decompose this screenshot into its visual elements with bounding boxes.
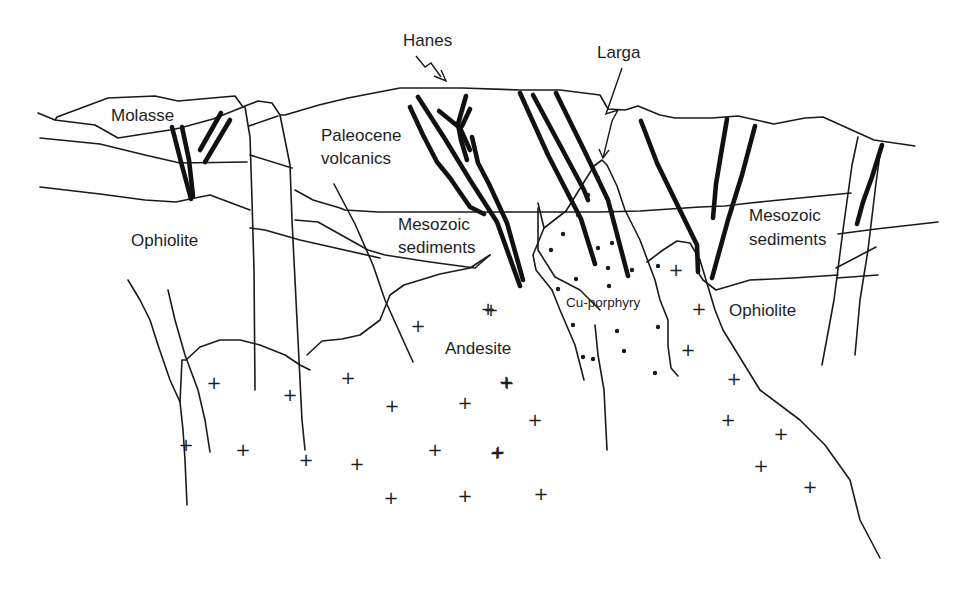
plus-icon: + [457, 392, 472, 413]
plus-icon: + [802, 476, 817, 497]
contact-line [533, 228, 552, 290]
porphyry-dot-icon [596, 176, 600, 180]
vein-line [205, 120, 230, 162]
contact-line [698, 272, 838, 290]
contact-line [837, 275, 878, 278]
contact-line [595, 325, 607, 450]
contact-line [250, 155, 292, 168]
andesite-plus-pattern: +++++++++++++++++++++++++++++ [178, 259, 817, 508]
plus-icon: + [349, 453, 364, 474]
plus-icon: + [498, 371, 513, 392]
contact-line [250, 228, 380, 258]
porphyry-dot-icon [622, 349, 626, 353]
plus-icon: + [773, 423, 788, 444]
hanes-arrow-icon [416, 56, 441, 77]
vein-line [857, 145, 882, 224]
plus-icon: + [206, 372, 221, 393]
plus-icon: + [527, 409, 542, 430]
plus-icon: + [178, 434, 193, 455]
unit-labels: HanesLargaMolassePaleocenevolcanicsOphio… [111, 31, 826, 358]
vein-line [472, 137, 523, 280]
label-cu-porphyry: Cu-porphyry [566, 295, 641, 310]
label-ophiolite-left: Ophiolite [131, 231, 198, 250]
plus-icon: + [383, 487, 398, 508]
plus-icon: + [483, 299, 498, 320]
porphyry-dot-icon [556, 287, 560, 291]
plus-icon: + [298, 449, 313, 470]
vein-line [410, 107, 484, 214]
label-andesite: Andesite [445, 339, 511, 358]
label-paleocene-volcanics-2: volcanics [321, 149, 391, 168]
porphyry-dot-icon [656, 325, 660, 329]
label-mesozoic-sediments-right-1: Mesozoic [749, 206, 821, 225]
plus-icon: + [680, 339, 695, 360]
porphyry-dot-icon [607, 284, 611, 288]
porphyry-dot-icon [549, 248, 553, 252]
vein-lines [172, 93, 882, 286]
vein-line [712, 126, 755, 278]
porphyry-dot-icon [656, 264, 660, 268]
contact-line [245, 107, 255, 390]
plus-icon: + [427, 439, 442, 460]
porphyry-dot-icon [591, 357, 595, 361]
porphyry-dot-icon [571, 323, 575, 327]
porphyry-dot-icon [610, 210, 614, 214]
porphyry-dot-icon [574, 277, 578, 281]
plus-icon: + [753, 455, 768, 476]
plus-icon: + [410, 315, 425, 336]
plus-icon: + [235, 439, 250, 460]
label-molasse: Molasse [111, 106, 174, 125]
plus-icon: + [457, 485, 472, 506]
porphyry-dot-icon [596, 246, 600, 250]
contact-line [40, 187, 250, 210]
plus-icon: + [340, 367, 355, 388]
label-hanes: Hanes [403, 31, 452, 50]
porphyry-dot-icon [561, 232, 565, 236]
contact-line [836, 247, 876, 268]
porphyry-dot-icon [610, 241, 614, 245]
porphyry-dot-icon [653, 371, 657, 375]
contact-line [538, 203, 566, 228]
porphyry-dot-icon [615, 329, 619, 333]
geological-cross-section: +++++++++++++++++++++++++++++ HanesLarga… [0, 0, 971, 590]
plus-icon: + [691, 298, 706, 319]
label-mesozoic-sediments-left-2: sediments [398, 238, 475, 257]
plus-icon: + [720, 409, 735, 430]
contact-line [128, 280, 187, 505]
plus-icon: + [668, 259, 683, 280]
porphyry-dot-icon [586, 193, 590, 197]
contact-line [838, 222, 938, 234]
porphyry-dot-icon [606, 266, 610, 270]
plus-icon: + [282, 384, 297, 405]
label-ophiolite-right: Ophiolite [729, 301, 796, 320]
vein-line [520, 93, 595, 264]
label-mesozoic-sediments-right-2: sediments [749, 230, 826, 249]
plus-icon: + [533, 483, 548, 504]
plus-icon: + [726, 368, 741, 389]
contact-line [249, 116, 278, 126]
porphyry-dot-icon [576, 213, 580, 217]
label-mesozoic-sediments-left-1: Mesozoic [398, 215, 470, 234]
vein-line [713, 119, 727, 218]
vein-line [641, 121, 698, 272]
porphyry-dot-pattern [549, 176, 660, 375]
plus-icon: + [384, 395, 399, 416]
larga-arrow-icon [603, 68, 622, 158]
contact-line [168, 290, 210, 452]
vein-line [418, 97, 520, 286]
label-paleocene-volcanics-1: Paleocene [321, 126, 401, 145]
porphyry-dot-icon [630, 268, 634, 272]
porphyry-dot-icon [581, 355, 585, 359]
contact-line [822, 137, 858, 365]
label-larga: Larga [597, 43, 641, 62]
plus-icon: + [490, 441, 505, 462]
